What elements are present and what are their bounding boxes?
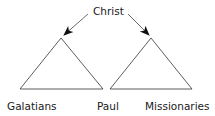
label-missionaries: Missionaries <box>145 101 210 112</box>
label-paul: Paul <box>97 101 119 112</box>
label-christ: Christ <box>93 6 124 17</box>
label-galatians: Galatians <box>7 101 57 112</box>
arrow-christ-to-galatians-triangle <box>64 14 88 35</box>
right-triangle <box>110 38 192 89</box>
relationship-diagram <box>0 0 215 116</box>
left-triangle <box>20 38 103 89</box>
arrow-christ-to-missionaries-triangle <box>128 14 149 35</box>
